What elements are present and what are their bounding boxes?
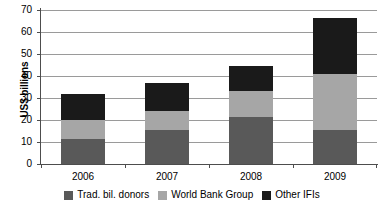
bar-segment (61, 120, 105, 139)
legend-label: Trad. bil. donors (77, 190, 149, 200)
legend-swatch (262, 191, 271, 200)
legend-item: Other IFIs (262, 190, 319, 200)
legend-label: World Bank Group (171, 190, 253, 200)
x-tick-mark (376, 164, 377, 168)
legend-swatch (64, 191, 73, 200)
y-tick-label: 30 (0, 93, 32, 103)
x-tick-mark (41, 164, 42, 168)
y-tick-mark (37, 142, 41, 143)
bar-2006 (61, 94, 105, 164)
legend-label: Other IFIs (275, 190, 319, 200)
y-tick-label: 70 (0, 5, 32, 15)
bar-segment (145, 111, 189, 130)
gridline (41, 10, 377, 11)
bar-segment (313, 130, 357, 164)
x-tick-label: 2009 (305, 172, 365, 182)
y-tick-mark (37, 10, 41, 11)
bar-segment (145, 83, 189, 112)
bar-segment (145, 130, 189, 164)
bar-2008 (229, 66, 273, 164)
x-tick-mark (125, 164, 126, 168)
y-tick-mark (37, 76, 41, 77)
chart-legend: Trad. bil. donorsWorld Bank GroupOther I… (0, 190, 384, 200)
x-tick-mark (209, 164, 210, 168)
y-tick-mark (37, 120, 41, 121)
bar-segment (61, 139, 105, 164)
x-tick-mark (293, 164, 294, 168)
bar-segment (229, 66, 273, 91)
bar-segment (229, 117, 273, 164)
x-tick-label: 2007 (137, 172, 197, 182)
bar-segment (229, 91, 273, 116)
x-tick-label: 2006 (53, 172, 113, 182)
bar-segment (313, 74, 357, 130)
y-tick-label: 50 (0, 49, 32, 59)
y-tick-mark (37, 32, 41, 33)
x-tick-label: 2008 (221, 172, 281, 182)
y-tick-label: 60 (0, 27, 32, 37)
y-tick-mark (37, 98, 41, 99)
plot-area: 010203040506070 2006200720082009 (41, 10, 377, 164)
y-tick-label: 0 (0, 159, 32, 169)
legend-swatch (158, 191, 167, 200)
y-tick-label: 20 (0, 115, 32, 125)
legend-item: World Bank Group (158, 190, 253, 200)
y-tick-label: 10 (0, 137, 32, 147)
legend-item: Trad. bil. donors (64, 190, 149, 200)
y-tick-mark (37, 54, 41, 55)
y-tick-label: 40 (0, 71, 32, 81)
bar-segment (61, 94, 105, 120)
bar-2007 (145, 83, 189, 164)
bar-segment (313, 18, 357, 74)
bar-2009 (313, 18, 357, 164)
stacked-bar-chart: US$ billions 010203040506070 20062007200… (0, 0, 384, 209)
